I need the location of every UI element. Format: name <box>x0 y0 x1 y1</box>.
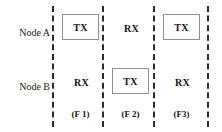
slot-caption-2: (F 2) <box>112 107 149 121</box>
slot-caption-1: (F 1) <box>62 107 99 121</box>
cell-node-a-slot-2: RX <box>112 14 151 42</box>
node-label-b: Node B <box>4 81 50 107</box>
cell-node-a-slot-1: TX <box>62 14 99 40</box>
cell-node-b-slot-3: RX <box>163 68 202 96</box>
timing-diagram: Node A Node B TX RX (F 1) RX TX (F 2) TX… <box>0 0 222 132</box>
slot-divider-3 <box>153 6 155 127</box>
cell-node-b-slot-2: TX <box>112 68 149 94</box>
node-label-a: Node A <box>4 27 50 53</box>
cell-node-a-slot-3: TX <box>163 14 200 40</box>
slot-divider-1 <box>52 6 54 127</box>
slot-divider-2 <box>102 6 104 127</box>
slot-caption-3: (F3) <box>163 107 200 121</box>
cell-node-b-slot-1: RX <box>62 68 101 96</box>
slot-divider-4 <box>207 6 209 127</box>
